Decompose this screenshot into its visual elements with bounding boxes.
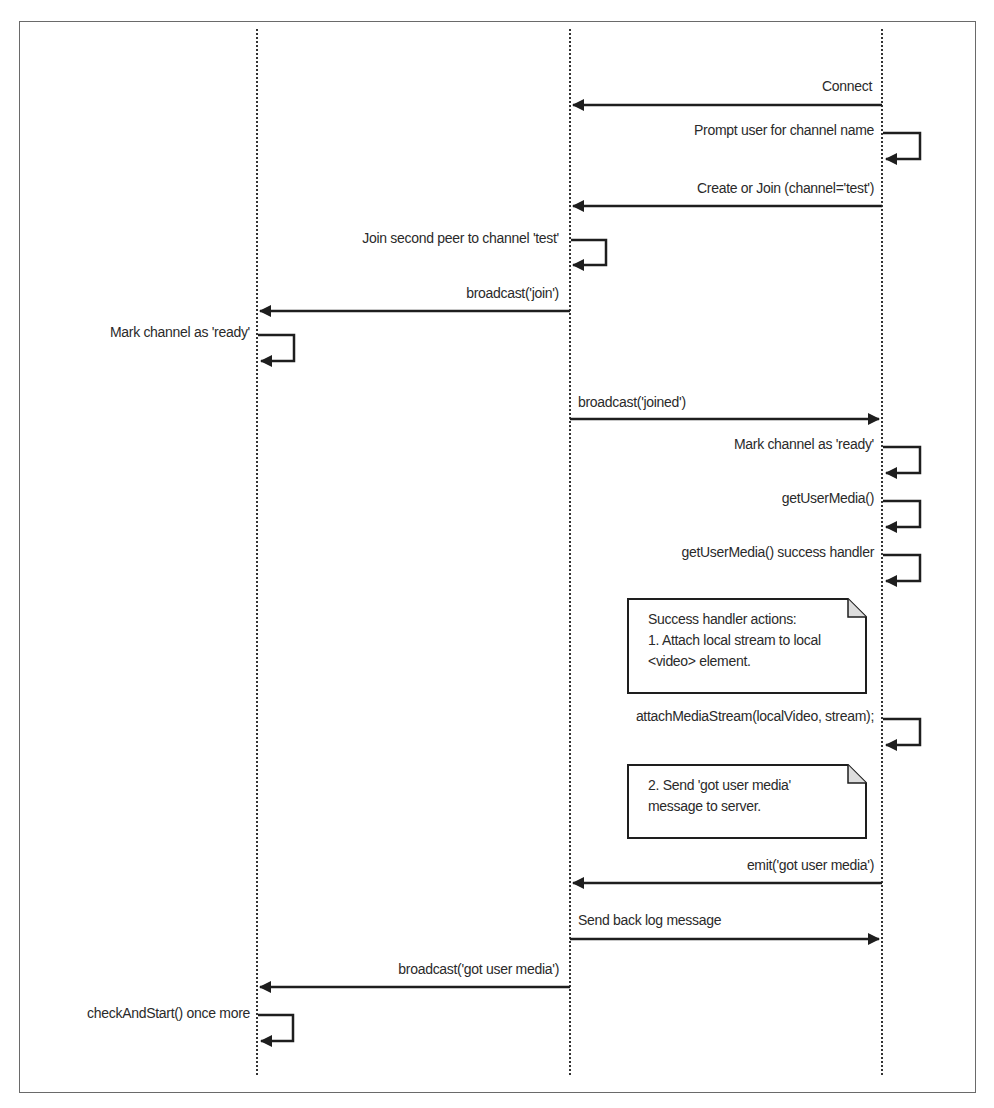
self-arrow-attach-media-stream (883, 719, 920, 745)
self-arrow-prompt-user (883, 133, 920, 159)
self-arrow-success-handler (883, 555, 920, 581)
self-arrow-mark-ready-peer1 (258, 335, 294, 361)
label-mark-ready-peer2: Mark channel as 'ready' (734, 436, 874, 452)
label-emit-got-user-media: emit('got user media') (747, 857, 874, 873)
label-success-handler: getUserMedia() success handler (681, 544, 874, 560)
self-arrow-check-and-start (258, 1015, 293, 1041)
label-create-or-join: Create or Join (channel='test') (697, 180, 874, 196)
note-line: 1. Attach local stream to local (648, 630, 821, 651)
self-arrow-mark-ready-peer2 (883, 447, 920, 473)
label-broadcast-joined: broadcast('joined') (578, 394, 686, 410)
label-broadcast-join: broadcast('join') (466, 285, 559, 301)
label-prompt-user: Prompt user for channel name (694, 122, 874, 138)
label-mark-ready-peer1: Mark channel as 'ready' (110, 324, 250, 340)
note-send-got-user-media-text: 2. Send 'got user media' message to serv… (648, 775, 791, 817)
note-line: <video> element. (648, 651, 821, 672)
note-line: 2. Send 'got user media' (648, 775, 791, 796)
label-send-back-log: Send back log message (578, 912, 721, 928)
label-join-second-peer: Join second peer to channel 'test' (362, 230, 559, 246)
note-line: message to server. (648, 796, 791, 817)
self-arrow-get-user-media (883, 501, 920, 527)
self-arrow-join-second-peer (571, 240, 606, 265)
note-success-handler-text: Success handler actions: 1. Attach local… (648, 609, 821, 672)
note-line: Success handler actions: (648, 609, 821, 630)
label-get-user-media: getUserMedia() (782, 490, 874, 506)
label-check-and-start: checkAndStart() once more (87, 1005, 250, 1021)
label-attach-media-stream: attachMediaStream(localVideo, stream); (636, 708, 874, 724)
label-connect: Connect (822, 78, 872, 94)
label-broadcast-got-user-media: broadcast('got user media') (398, 961, 559, 977)
